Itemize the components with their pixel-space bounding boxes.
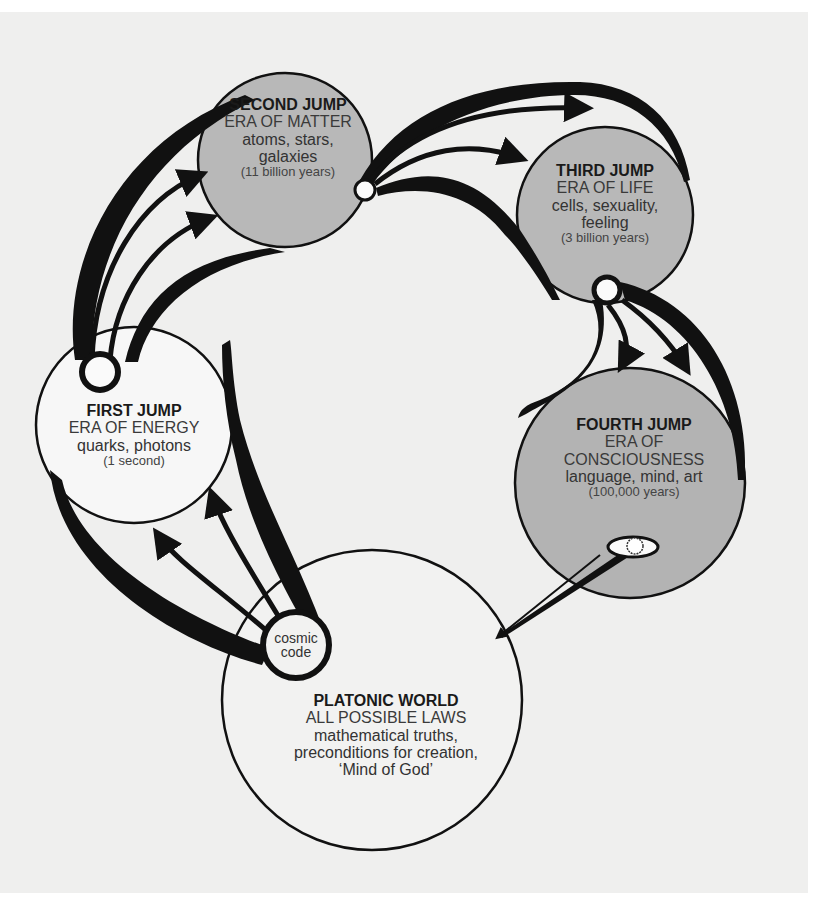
fourth-jump-label: FOURTH JUMP ERA OF CONSCIOUSNESS languag… (564, 416, 704, 499)
second-jump-label: SECOND JUMP ERA OF MATTER atoms, stars, … (224, 96, 352, 179)
third-jump-desc-2: feeling (552, 214, 658, 231)
cosmic-code-line-1: cosmic (274, 631, 318, 645)
third-jump-title: THIRD JUMP (552, 162, 658, 179)
first-jump-node (82, 354, 118, 390)
fourth-jump-duration: (100,000 years) (564, 485, 704, 499)
second-jump-node (355, 180, 375, 200)
second-jump-desc-2: galaxies (224, 148, 352, 165)
second-jump-desc-1: atoms, stars, (224, 131, 352, 148)
third-jump-era: ERA OF LIFE (552, 179, 658, 196)
third-jump-duration: (3 billion years) (552, 231, 658, 245)
second-jump-duration: (11 billion years) (224, 165, 352, 179)
fourth-jump-era-2: CONSCIOUSNESS (564, 451, 704, 468)
first-jump-duration: (1 second) (69, 454, 200, 468)
cosmic-code-label: cosmic code (274, 631, 318, 659)
third-jump-label: THIRD JUMP ERA OF LIFE cells, sexuality,… (552, 162, 658, 245)
fourth-jump-desc-1: language, mind, art (564, 468, 704, 485)
platonic-world-title: PLATONIC WORLD (294, 692, 478, 709)
fourth-jump-era-1: ERA OF (564, 433, 704, 450)
platonic-world-era: ALL POSSIBLE LAWS (294, 709, 478, 726)
first-jump-desc-1: quarks, photons (69, 437, 200, 454)
first-jump-label: FIRST JUMP ERA OF ENERGY quarks, photons… (69, 402, 200, 468)
platonic-world-desc-2: preconditions for creation, (294, 744, 478, 761)
first-jump-era: ERA OF ENERGY (69, 419, 200, 436)
third-jump-node (594, 277, 620, 303)
first-jump-title: FIRST JUMP (69, 402, 200, 419)
cosmic-code-line-2: code (274, 645, 318, 659)
fourth-jump-title: FOURTH JUMP (564, 416, 704, 433)
platonic-world-label: PLATONIC WORLD ALL POSSIBLE LAWS mathema… (294, 692, 478, 778)
second-jump-title: SECOND JUMP (224, 96, 352, 113)
eye-icon (608, 537, 658, 557)
platonic-world-desc-1: mathematical truths, (294, 727, 478, 744)
platonic-world-desc-3: ‘Mind of God’ (294, 761, 478, 778)
third-jump-desc-1: cells, sexuality, (552, 197, 658, 214)
second-jump-era: ERA OF MATTER (224, 113, 352, 130)
